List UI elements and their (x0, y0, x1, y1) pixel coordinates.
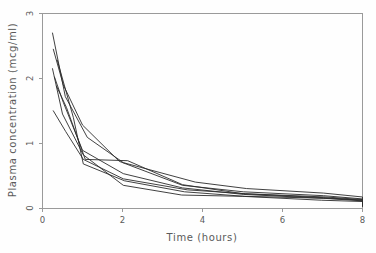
x-tick-label-3: 6 (280, 215, 285, 225)
x-tick-label-2: 4 (200, 215, 205, 225)
data-curve (53, 69, 363, 206)
x-axis-title: Time (hours) (166, 232, 238, 243)
y-tick-label-2: 2 (25, 76, 35, 81)
data-curve (53, 33, 363, 205)
x-axis-ticks (43, 208, 363, 212)
y-tick-label-3: 3 (25, 11, 35, 16)
axes-frame (43, 14, 363, 209)
data-curve (53, 49, 362, 205)
data-curve (55, 77, 363, 206)
data-curves-group (53, 33, 363, 206)
y-axis-title: Plasma concentration (mcg/ml) (7, 23, 18, 197)
figure-canvas: 0 2 4 6 8 0 1 2 3 Time (hours) Plasma co… (0, 0, 376, 253)
x-tick-label-4: 8 (360, 215, 365, 225)
data-curve (53, 111, 362, 206)
y-tick-label-0: 0 (25, 205, 35, 210)
y-tick-label-1: 1 (25, 140, 35, 145)
x-tick-label-0: 0 (40, 215, 45, 225)
plasma-concentration-line-chart: 0 2 4 6 8 0 1 2 3 Time (hours) Plasma co… (0, 0, 376, 253)
x-tick-label-1: 2 (120, 215, 125, 225)
y-axis-ticks (39, 14, 43, 208)
